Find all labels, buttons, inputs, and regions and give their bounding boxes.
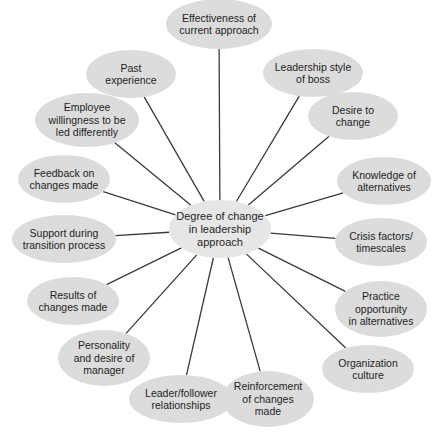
node-personality: Personality and desire of manager [58,330,150,386]
connector-past-experience [144,97,204,201]
node-reinforcement: Reinforcement of changes made [222,371,314,427]
node-past-experience: Past experience [86,50,176,98]
connector-support [116,232,170,235]
node-leadership-style-label: Leadership style of boss [275,61,351,86]
connector-effectiveness [219,49,220,200]
connector-organization [246,254,346,348]
connector-results [107,248,182,285]
node-feedback-label: Feedback on changes made [30,167,99,192]
center-node: Degree of change in leadership approach [169,200,271,258]
node-support-label: Support during transition process [23,227,105,252]
node-employee-willingness: Employee willingness to be led different… [35,93,139,147]
connector-leadership-style [236,96,299,201]
connector-employee-willingness [115,143,191,205]
node-feedback: Feedback on changes made [18,155,110,203]
node-effectiveness: Effectiveness of current approach [166,0,272,49]
node-effectiveness-label: Effectiveness of current approach [179,12,258,37]
node-desire-to-change: Desire to change [308,92,398,140]
connector-personality [126,255,197,334]
node-past-experience-label: Past experience [105,62,156,87]
node-personality-label: Personality and desire of manager [74,339,135,377]
mind-map-diagram: Degree of change in leadership approachE… [0,0,434,440]
node-leadership-style: Leadership style of boss [263,49,363,97]
node-crisis-label: Crisis factors/ timescales [349,230,413,255]
node-results-label: Results of changes made [39,289,108,314]
node-organization: Organization culture [322,345,414,393]
node-results: Results of changes made [27,277,119,325]
node-employee-willingness-label: Employee willingness to be led different… [48,101,125,139]
connector-crisis [270,233,335,238]
node-organization-label: Organization culture [338,357,398,382]
connector-feedback [103,192,175,215]
center-node-label: Degree of change in leadership approach [176,210,263,249]
node-desire-to-change-label: Desire to change [332,104,374,129]
connector-practice [258,248,345,291]
node-leader-follower: Leader/follower relationships [129,375,233,423]
node-knowledge: Knowledge of alternatives [337,157,431,205]
connector-desire-to-change [248,136,329,205]
connector-knowledge [265,193,343,216]
node-leader-follower-label: Leader/follower relationships [145,387,217,412]
node-support: Support during transition process [12,215,116,263]
connector-leader-follower [186,258,213,375]
node-crisis: Crisis factors/ timescales [335,218,427,266]
node-practice: Practice opportunity in alternatives [335,281,427,337]
node-knowledge-label: Knowledge of alternatives [352,169,416,194]
node-reinforcement-label: Reinforcement of changes made [234,380,302,418]
node-practice-label: Practice opportunity in alternatives [349,290,414,328]
connector-reinforcement [228,258,260,372]
